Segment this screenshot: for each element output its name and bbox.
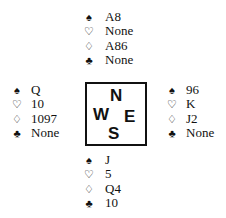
compass-west-label: W: [93, 106, 109, 123]
north-spades: A8: [105, 10, 121, 24]
club-icon: ♣: [166, 126, 178, 140]
diamond-icon: ♢: [83, 39, 95, 53]
east-diamonds-row: ♢ J2: [166, 112, 178, 126]
west-diamonds-row: ♢ 1097: [11, 112, 23, 126]
spade-icon: ♠: [83, 10, 95, 24]
east-spades-row: ♠ 96: [166, 83, 178, 97]
west-hearts: 10: [31, 97, 44, 111]
north-clubs: None: [105, 53, 133, 67]
east-diamonds: J2: [186, 112, 198, 126]
north-hearts-row: ♡ None: [83, 24, 95, 38]
east-clubs-row: ♣ None: [166, 126, 178, 140]
heart-icon: ♡: [83, 167, 95, 181]
compass-east-label: E: [124, 108, 135, 125]
compass-south-label: S: [108, 125, 119, 142]
diamond-icon: ♢: [83, 182, 95, 196]
west-diamonds: 1097: [31, 112, 57, 126]
club-icon: ♣: [83, 53, 95, 67]
compass-box: N W E S: [85, 82, 147, 146]
west-spades-row: ♠ Q: [11, 83, 23, 97]
south-clubs-row: ♣ 10: [83, 196, 95, 210]
south-clubs: 10: [105, 196, 118, 210]
heart-icon: ♡: [83, 24, 95, 38]
north-spades-row: ♠ A8: [83, 10, 95, 24]
north-clubs-row: ♣ None: [83, 53, 95, 67]
heart-icon: ♡: [166, 97, 178, 111]
spade-icon: ♠: [166, 83, 178, 97]
east-hearts-row: ♡ K: [166, 97, 178, 111]
south-spades: J: [105, 153, 110, 167]
north-hand: ♠ A8 ♡ None ♢ A86 ♣ None: [83, 10, 95, 67]
diamond-icon: ♢: [11, 112, 23, 126]
south-hearts-row: ♡ 5: [83, 167, 95, 181]
east-hand: ♠ 96 ♡ K ♢ J2 ♣ None: [166, 83, 178, 140]
south-diamonds-row: ♢ Q4: [83, 182, 95, 196]
spade-icon: ♠: [83, 153, 95, 167]
compass-north-label: N: [110, 87, 122, 104]
south-spades-row: ♠ J: [83, 153, 95, 167]
north-hearts: None: [105, 24, 133, 38]
south-diamonds: Q4: [105, 182, 121, 196]
club-icon: ♣: [11, 126, 23, 140]
west-hand: ♠ Q ♡ 10 ♢ 1097 ♣ None: [11, 83, 23, 140]
south-hearts: 5: [105, 167, 112, 181]
heart-icon: ♡: [11, 97, 23, 111]
south-hand: ♠ J ♡ 5 ♢ Q4 ♣ 10: [83, 153, 95, 210]
spade-icon: ♠: [11, 83, 23, 97]
west-clubs: None: [31, 126, 59, 140]
club-icon: ♣: [83, 196, 95, 210]
west-hearts-row: ♡ 10: [11, 97, 23, 111]
north-diamonds-row: ♢ A86: [83, 39, 95, 53]
north-diamonds: A86: [105, 39, 127, 53]
east-clubs: None: [186, 126, 214, 140]
west-clubs-row: ♣ None: [11, 126, 23, 140]
west-spades: Q: [31, 83, 40, 97]
east-spades: 96: [186, 83, 199, 97]
east-hearts: K: [186, 97, 195, 111]
diamond-icon: ♢: [166, 112, 178, 126]
